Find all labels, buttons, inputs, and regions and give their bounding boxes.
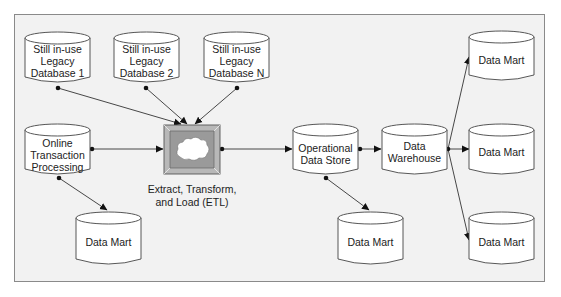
- node-label: Legacy: [41, 55, 76, 67]
- node-label: Data: [403, 140, 425, 152]
- node-label: Transaction: [30, 149, 85, 161]
- etl-label: and Load (ETL): [156, 196, 229, 208]
- node-label: Still in-use: [33, 43, 82, 55]
- node-label: Data Mart: [478, 54, 524, 66]
- node-legacy-database-2: Still in-use Legacy Database 2: [114, 32, 179, 82]
- node-data-warehouse: Data Warehouse: [382, 124, 447, 174]
- node-label: Data Mart: [85, 236, 131, 248]
- node-online-transaction-processing: Online Transaction Processing: [25, 124, 90, 174]
- etl-label: Extract, Transform,: [148, 183, 237, 195]
- node-legacy-database-n: Still in-use Legacy Database N: [204, 32, 269, 82]
- node-label: Warehouse: [388, 152, 441, 164]
- node-label: Still in-use: [212, 43, 261, 55]
- node-data-mart-ods: Data Mart: [338, 212, 403, 264]
- node-label: Operational: [298, 142, 352, 154]
- node-data-mart-dw-middle: Data Mart: [469, 124, 534, 174]
- node-label: Still in-use: [122, 43, 171, 55]
- node-label: Data Store: [300, 154, 350, 166]
- node-label: Processing: [32, 161, 84, 173]
- node-label: Database 2: [120, 67, 174, 79]
- node-data-mart-dw-top: Data Mart: [469, 31, 534, 80]
- node-label: Online: [42, 137, 73, 149]
- connector-dot: [56, 86, 61, 91]
- node-label: Database N: [209, 67, 264, 79]
- node-legacy-database-1: Still in-use Legacy Database 1: [25, 32, 90, 82]
- node-data-mart-oltp: Data Mart: [76, 212, 141, 264]
- connector-dot: [57, 176, 62, 181]
- node-label: Data Mart: [478, 146, 524, 158]
- connector-dot: [324, 176, 329, 181]
- node-label: Legacy: [130, 55, 165, 67]
- connector-dot: [144, 86, 149, 91]
- node-data-mart-dw-bottom: Data Mart: [469, 212, 534, 264]
- node-label: Database 1: [31, 67, 85, 79]
- etl-architecture-diagram: Still in-use Legacy Database 1 Still in-…: [0, 0, 561, 297]
- connector-dot: [235, 86, 240, 91]
- node-label: Legacy: [220, 55, 255, 67]
- node-label: Data Mart: [347, 236, 393, 248]
- node-label: Data Mart: [478, 236, 524, 248]
- node-operational-data-store: Operational Data Store: [293, 124, 358, 174]
